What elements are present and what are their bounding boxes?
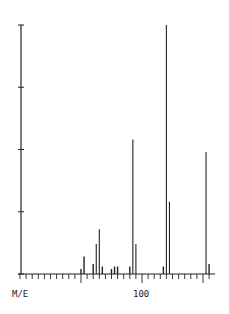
peaks — [81, 25, 209, 274]
x-tick-label-100: 100 — [133, 289, 149, 299]
axes — [18, 25, 215, 283]
mass-spectrum-chart — [0, 0, 229, 314]
x-axis-label: M/E — [12, 289, 28, 299]
